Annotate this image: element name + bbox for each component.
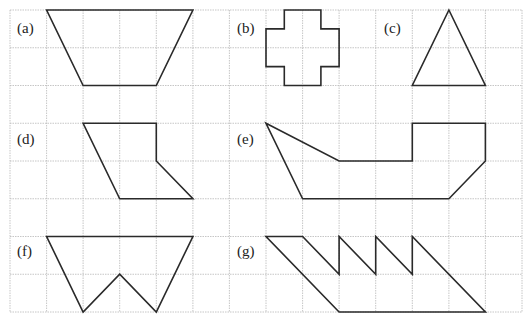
labels-layer: (a)(b)(c)(d)(e)(f)(g)	[17, 20, 401, 260]
shape-label-b: (b)	[237, 20, 255, 37]
shape-label-a: (a)	[17, 20, 34, 37]
shape-label-e: (e)	[237, 131, 254, 148]
shape-label-c: (c)	[384, 20, 401, 37]
shape-label-d: (d)	[17, 131, 35, 148]
shapes-grid-diagram: (a)(b)(c)(d)(e)(f)(g)	[0, 0, 532, 327]
shape-label-f: (f)	[17, 243, 32, 260]
shape-label-g: (g)	[237, 243, 255, 260]
